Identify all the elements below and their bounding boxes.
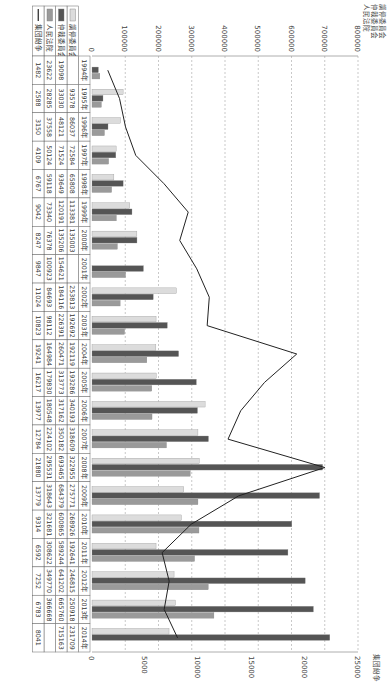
bar [92,606,313,612]
table-value: 715163 [58,626,65,650]
bar [92,430,198,436]
table-value: 318643 [46,484,53,508]
table-value: 86037 [69,117,76,137]
table-cell [67,255,79,283]
table-value: 73340 [46,202,53,222]
category-label: 2011年 [80,542,89,564]
table-value: 275771 [69,484,76,508]
category-label: 1996年 [80,116,89,138]
y2-tick-label: 5000 [140,656,148,674]
y-tick-label: 600000 [287,25,295,52]
category-label: 2008年 [80,457,89,479]
bar [92,543,156,549]
table-value: 260471 [58,342,65,366]
bar [92,464,323,470]
category-label: 2004年 [80,343,89,365]
table-value: 37558 [46,117,53,137]
category-label: 1999年 [80,201,89,223]
table-value: 349770 [46,569,53,593]
bar [92,102,101,108]
bar [92,300,120,306]
legend-label: 仲裁委員会 [57,24,66,59]
bar [92,215,116,221]
table-value: 308622 [46,541,53,565]
table-value: 179830 [46,370,53,394]
table-value: 11024 [35,287,42,307]
table-value: 317162 [58,399,65,423]
table-value: 84693 [46,287,53,307]
bar [92,67,98,73]
y2-tick-label: 0 [87,656,95,660]
table-value: 10823 [35,316,42,336]
table-value: 1482 [35,62,42,78]
legend-swatch [47,9,53,21]
bar [92,118,121,124]
bar [92,386,152,392]
table-value: 21880 [35,458,42,478]
table-value: 350182 [58,427,65,451]
table-value: 13779 [35,486,42,506]
y-tick-label: 100000 [120,25,128,52]
y-tick-label: 0 [87,48,95,52]
table-value: 100923 [46,257,53,281]
table-value: 164984 [46,342,53,366]
bar [92,203,130,209]
bar [92,73,100,79]
y-tick-label: 700000 [320,25,328,52]
bar [92,152,116,158]
chart: 0100000200000300000400000500000600000700… [0,0,388,684]
table-value: 7252 [35,573,42,589]
table-value: 250918 [69,597,76,621]
y2-tick-label: 10000 [193,656,201,678]
bar [92,231,137,237]
table-value: 16217 [35,372,42,392]
y-axis-title: 人民法院 [362,4,371,32]
table-value: 224102 [46,427,53,451]
bar [92,124,108,130]
table-value: 23622 [46,60,53,80]
table-value: 193286 [69,370,76,394]
table-value: 33030 [58,89,65,109]
table-value: 600865 [58,512,65,536]
bar [92,158,109,164]
category-label: 2013年 [80,598,89,620]
bar [92,436,208,442]
table-value: 192119 [69,342,76,366]
bar [92,244,117,250]
y2-tick-label: 20000 [300,656,308,678]
category-label: 2009年 [80,485,89,507]
table-value: 253813 [69,285,76,309]
bar [92,414,152,420]
table-value: 6592 [35,545,42,561]
table-value: 184116 [58,285,65,309]
bar [92,458,199,464]
table-value: 19098 [58,60,65,80]
bar [92,181,123,187]
table-value: 9847 [35,261,42,277]
bar [92,294,153,300]
table-value: 135206 [58,228,65,252]
table-cell [67,56,79,84]
category-label: 2006年 [80,400,89,422]
table-value: 8041 [35,630,42,646]
bar [92,146,116,152]
bar [92,401,205,407]
table-value: 120191 [58,200,65,224]
category-label: 2010年 [80,513,89,535]
legend-swatch [70,9,76,21]
category-label: 2012年 [80,570,89,592]
bar [92,556,195,562]
category-label: 2001年 [80,258,89,280]
table-value: 59118 [46,174,53,194]
table-value: 8247 [35,232,42,248]
table-value: 268926 [69,512,76,536]
bar [92,357,147,363]
table-value: 318609 [69,427,76,451]
category-label: 1998年 [80,173,89,195]
bar [92,187,112,193]
bar [92,373,156,379]
bar [92,442,167,448]
bar [92,89,123,95]
y-tick-label: 400000 [220,25,228,52]
table-value: 589244 [58,541,65,565]
